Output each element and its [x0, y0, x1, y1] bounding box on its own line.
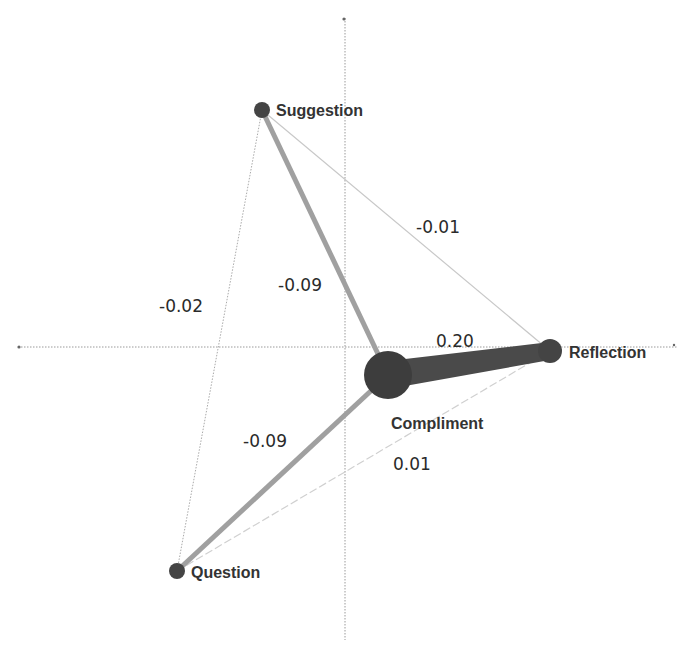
- edge-label-question-reflection: 0.01: [393, 454, 431, 474]
- edge-label-compliment-reflection: 0.20: [436, 331, 474, 351]
- label-compliment: Compliment: [391, 415, 484, 432]
- node-labels: Suggestion Reflection Compliment Questio…: [191, 102, 646, 581]
- node-suggestion[interactable]: [254, 102, 270, 118]
- edge-label-suggestion-question: -0.02: [159, 296, 203, 316]
- nodes: [169, 102, 562, 579]
- edge-label-suggestion-reflection: -0.01: [416, 217, 460, 237]
- node-reflection[interactable]: [538, 339, 562, 363]
- edge-label-compliment-question: -0.09: [243, 431, 287, 451]
- edge-suggestion-reflection: [262, 110, 550, 351]
- label-reflection: Reflection: [569, 344, 646, 361]
- medium-edges: [177, 110, 388, 571]
- node-question[interactable]: [169, 563, 185, 579]
- edge-compliment-question: [177, 375, 388, 571]
- label-question: Question: [191, 564, 260, 581]
- label-suggestion: Suggestion: [276, 102, 363, 119]
- node-compliment[interactable]: [364, 351, 412, 399]
- edge-label-compliment-suggestion: -0.09: [278, 275, 322, 295]
- edge-labels: 0.20 -0.09 -0.09 -0.01 -0.02 0.01: [159, 217, 474, 474]
- edge-question-reflection: [177, 351, 550, 571]
- edge-compliment-suggestion: [262, 110, 388, 375]
- horizontal-axis-right-tick: [673, 344, 675, 346]
- vertical-axis-top-tick: [342, 17, 345, 20]
- weak-edges: [177, 110, 550, 571]
- network-diagram: Suggestion Reflection Compliment Questio…: [0, 0, 682, 658]
- horizontal-axis-left-tick: [17, 345, 20, 348]
